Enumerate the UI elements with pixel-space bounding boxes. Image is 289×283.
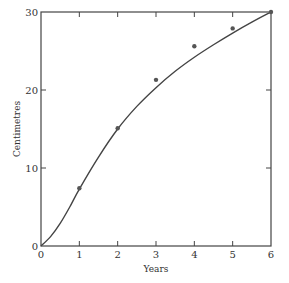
y-tick-label: 30 [25,7,38,18]
plot-frame [41,12,271,246]
y-tick-label: 20 [25,85,38,96]
y-axis-title: Centimetres [12,101,22,158]
x-tick-label: 1 [76,249,82,260]
y-axis: 0102030 [25,7,271,252]
y-tick-label: 0 [32,241,38,252]
x-tick-label: 3 [153,249,159,260]
data-point [115,126,119,130]
fitted-curve [41,12,271,246]
data-point [230,26,234,30]
data-point [192,44,196,48]
x-tick-label: 6 [268,249,274,260]
x-tick-label: 0 [38,249,44,260]
data-points [77,10,273,191]
x-tick-label: 2 [114,249,120,260]
x-tick-label: 5 [229,249,235,260]
data-point [77,186,81,190]
x-axis-title: Years [143,264,169,274]
x-axis: 0123456 [38,12,274,260]
x-tick-label: 4 [191,249,197,260]
data-point [269,10,273,14]
chart: 0123456 0102030 Years Centimetres [0,0,289,283]
data-point [154,78,158,82]
y-tick-label: 10 [25,163,38,174]
